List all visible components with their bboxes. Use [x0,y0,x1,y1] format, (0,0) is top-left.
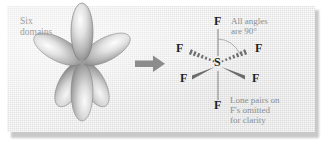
lone-pair-annotation-line2: F's omitted [230,105,280,115]
atom-label-sulfur: S [214,56,221,69]
bond-upper-right-dashed-wedge [221,49,247,64]
atom-label-fluorine-bottom: F [214,99,221,112]
angle-annotation-line2: are 90° [231,26,268,36]
bond-lower-left-solid-wedge [192,67,215,80]
bond-lower-right-solid-wedge [222,67,246,80]
atom-label-fluorine-lower-right: F [252,72,259,85]
lone-pair-annotation-line1: Lone pairs on [230,95,280,105]
angle-annotation-line1: All angles [231,16,268,26]
atom-label-fluorine-top: F [214,15,221,28]
bond-upper-left-dashed-wedge [189,49,215,64]
angle-annotation: All angles are 90° [231,16,268,36]
atom-label-fluorine-upper-left: F [176,42,183,55]
lone-pair-annotation: Lone pairs on F's omitted for clarity [230,95,280,125]
chemistry-figure: Six domains [0,0,328,147]
atom-label-fluorine-upper-right: F [255,42,262,55]
atom-label-fluorine-lower-left: F [180,72,187,85]
lone-pair-annotation-line3: for clarity [230,115,280,125]
angle-arc-90 [218,39,240,54]
